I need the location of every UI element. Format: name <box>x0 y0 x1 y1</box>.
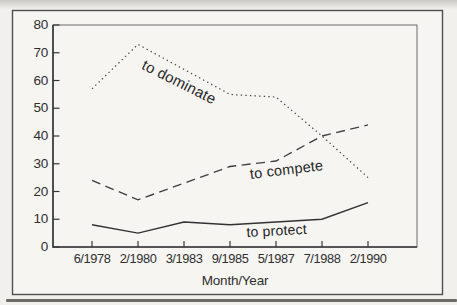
y-tick-label: 50 <box>18 101 48 115</box>
x-axis-title: Month/Year <box>53 273 417 288</box>
y-tick-label: 70 <box>18 46 48 60</box>
series-label-to-protect: to protect <box>246 221 307 240</box>
scan-rule-bottom <box>6 299 457 302</box>
y-tick-label: 40 <box>18 129 48 143</box>
scanned-figure-page: 01020304050607080 6/19782/19803/19839/19… <box>0 0 457 305</box>
y-tick-label: 30 <box>18 157 48 171</box>
y-tick-label: 10 <box>18 212 48 226</box>
y-tick-label: 60 <box>18 74 48 88</box>
y-tick-label: 0 <box>18 240 48 254</box>
y-tick-label: 20 <box>18 185 48 199</box>
y-tick-label: 80 <box>18 18 48 32</box>
x-tick-label: 2/1990 <box>341 252 395 266</box>
